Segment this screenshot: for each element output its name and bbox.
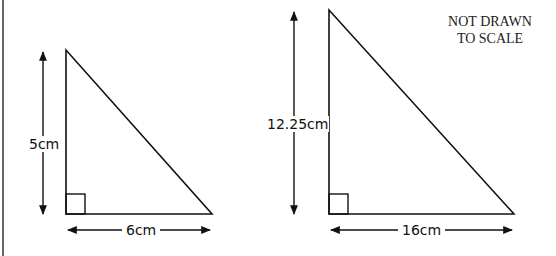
large-triangle-height-label: 12.25cm: [266, 116, 329, 132]
right-angle-marker-icon: [329, 194, 348, 214]
not-to-scale-note: NOT DRAWN TO SCALE: [435, 13, 545, 47]
small-triangle-outline: [66, 50, 212, 214]
right-angle-marker-icon: [66, 194, 85, 214]
small-triangle-height-label: 5cm: [28, 136, 60, 152]
large-triangle-base-label: 16cm: [398, 222, 445, 238]
note-line-1: NOT DRAWN: [435, 13, 545, 30]
small-triangle: [43, 50, 212, 230]
diagram-canvas: 5cm 6cm 12.25cm 16cm NOT DRAWN TO SCALE: [0, 0, 556, 256]
note-line-2: TO SCALE: [435, 30, 545, 47]
small-triangle-base-label: 6cm: [122, 222, 160, 238]
